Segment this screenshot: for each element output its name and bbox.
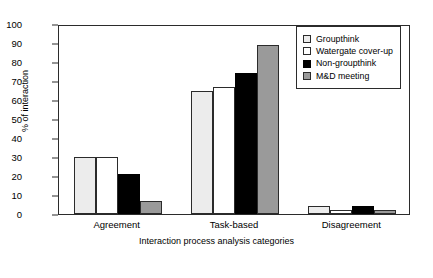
legend-item: Groupthink [303,34,393,45]
legend-item: Non-groupthink [303,58,393,69]
bar [308,206,330,214]
y-tick-label: 80 [0,58,22,68]
y-tick-label: 100 [0,20,22,30]
bar [140,201,162,214]
bar [191,91,213,215]
legend-swatch-icon [303,60,311,68]
bar [374,210,396,214]
y-tick-label: 60 [0,96,22,106]
bar [352,206,374,214]
x-tick-label: Disagreement [322,219,381,230]
bar [96,157,118,214]
legend-item: M&D meeting [303,71,393,82]
y-tick-label: 40 [0,134,22,144]
legend-label: Groupthink [316,34,359,45]
bar [257,45,279,214]
y-tick-label: 20 [0,172,22,182]
legend-swatch-icon [303,47,311,55]
bar [118,174,140,214]
bar [74,157,96,214]
x-tick-label: Agreement [93,219,139,230]
bar-group [191,26,279,214]
legend-label: M&D meeting [316,71,369,82]
y-tick-label: 90 [0,39,22,49]
legend-label: Watergate cover-up [316,46,393,57]
x-tick-label: Task-based [210,219,259,230]
chart-legend: GroupthinkWatergate cover-upNon-groupthi… [296,26,401,89]
y-tick-label: 0 [0,210,22,220]
legend-swatch-icon [303,35,311,43]
legend-label: Non-groupthink [316,58,376,69]
y-tick-label: 10 [0,191,22,201]
legend-item: Watergate cover-up [303,46,393,57]
x-axis-title: Interaction process analysis categories [0,236,433,246]
bar [235,73,257,214]
chart-figure: % of interaction 0102030405060708090100 … [0,0,433,278]
y-tick-label: 30 [0,153,22,163]
legend-swatch-icon [303,72,311,80]
y-tick-label: 50 [0,115,22,125]
y-tick-label: 70 [0,77,22,87]
bar [213,87,235,214]
bar [330,210,352,214]
bar-group [74,26,162,214]
